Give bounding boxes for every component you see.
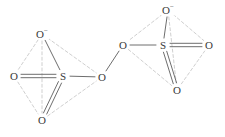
tetrahedron-edge [129, 14, 163, 40]
single-bond-line [164, 17, 167, 38]
atom-symbol: O [162, 4, 170, 16]
atom-label-o-a2: O [9, 71, 19, 82]
tetrahedron-edge [18, 40, 38, 70]
double-bond-line [43, 82, 58, 113]
atom-label-o-a8: O− [161, 5, 175, 16]
structure-canvas [0, 0, 225, 137]
atom-label-o-a4: O [37, 115, 47, 126]
tetrahedron-edge [128, 49, 171, 85]
atom-charge-superscript: − [170, 3, 174, 11]
single-bond-line [106, 51, 119, 71]
atom-symbol: O [173, 84, 181, 96]
tetrahedron-edge [18, 82, 38, 114]
atom-label-s-a3: S [59, 71, 67, 82]
tetrahedron-edge [48, 38, 97, 73]
tetrahedron-edge [48, 81, 97, 116]
double-bond-line [47, 83, 62, 114]
atom-symbol: O [38, 114, 46, 126]
single-bond-line [70, 76, 95, 77]
atom-label-o-a10: O [172, 85, 182, 96]
atom-symbol: S [60, 70, 66, 82]
atom-label-o-a6: O [118, 40, 128, 51]
atom-symbol: O [36, 28, 44, 40]
atom-charge-superscript: − [44, 27, 48, 35]
atom-label-s-a7: S [159, 40, 167, 51]
tetrahedron-edge [173, 15, 203, 41]
atom-symbol: O [119, 39, 127, 51]
atom-label-o-a9: O [204, 40, 214, 51]
tetrahedron-edge [181, 51, 205, 85]
atom-label-o-a1: O− [35, 29, 49, 40]
atom-symbol: S [160, 39, 166, 51]
atom-symbol: O [205, 39, 213, 51]
atom-label-o-a5: O [97, 72, 107, 83]
atom-symbol: O [98, 71, 106, 83]
chemical-structure-figure: Disulfate-type chain: two tetrahedral SO… [0, 0, 225, 137]
atom-symbol: O [10, 70, 18, 82]
